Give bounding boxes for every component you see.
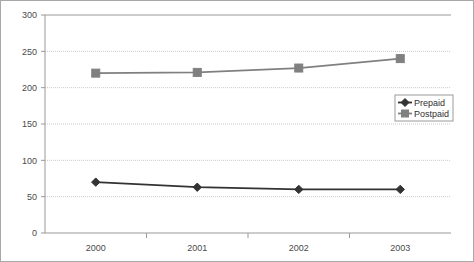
legend-swatch-marker-postpaid — [402, 110, 409, 117]
legend-label-postpaid: Postpaid — [414, 109, 449, 119]
x-axis-tick-label: 2001 — [187, 243, 207, 253]
y-axis-tick-label: 250 — [22, 47, 37, 57]
data-point-postpaid — [295, 64, 303, 72]
y-axis-tick-label: 150 — [22, 119, 37, 129]
y-axis-tick-label: 100 — [22, 156, 37, 166]
data-point-postpaid — [396, 55, 404, 63]
data-point-postpaid — [193, 68, 201, 76]
series-line-prepaid — [96, 182, 401, 189]
data-point-prepaid — [92, 178, 100, 186]
x-axis-tick-label: 2003 — [390, 243, 410, 253]
data-point-prepaid — [295, 185, 303, 193]
x-axis-tick-label: 2000 — [86, 243, 106, 253]
line-chart: 0501001502002503002000200120022003Prepai… — [1, 1, 474, 262]
y-axis-tick-label: 200 — [22, 83, 37, 93]
x-axis-tick-label: 2002 — [289, 243, 309, 253]
chart-container: 0501001502002503002000200120022003Prepai… — [0, 0, 474, 262]
series-line-postpaid — [96, 59, 401, 74]
legend-label-prepaid: Prepaid — [414, 98, 445, 108]
y-axis-tick-label: 50 — [27, 192, 37, 202]
data-point-prepaid — [396, 185, 404, 193]
data-point-postpaid — [92, 69, 100, 77]
y-axis-tick-label: 300 — [22, 10, 37, 20]
data-point-prepaid — [193, 183, 201, 191]
y-axis-tick-label: 0 — [32, 228, 37, 238]
